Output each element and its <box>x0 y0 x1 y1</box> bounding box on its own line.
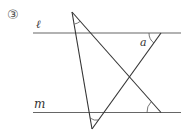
angle-arc-top <box>75 22 81 25</box>
segment-bottom-to-l <box>92 33 161 129</box>
segment-left <box>72 12 92 129</box>
angle-arc-bottom <box>90 118 99 120</box>
angle-arc-m <box>147 102 151 113</box>
label-line-l: ℓ <box>36 18 41 31</box>
label-line-m: m <box>34 97 45 111</box>
diagram-canvas: ③ ℓ m a <box>0 0 186 133</box>
label-angle-a: a <box>140 36 147 49</box>
angle-arc-a <box>149 33 154 43</box>
problem-number: ③ <box>7 7 19 22</box>
geometry-diagram: ③ ℓ m a <box>0 0 186 133</box>
segment-top-to-m <box>72 12 161 113</box>
